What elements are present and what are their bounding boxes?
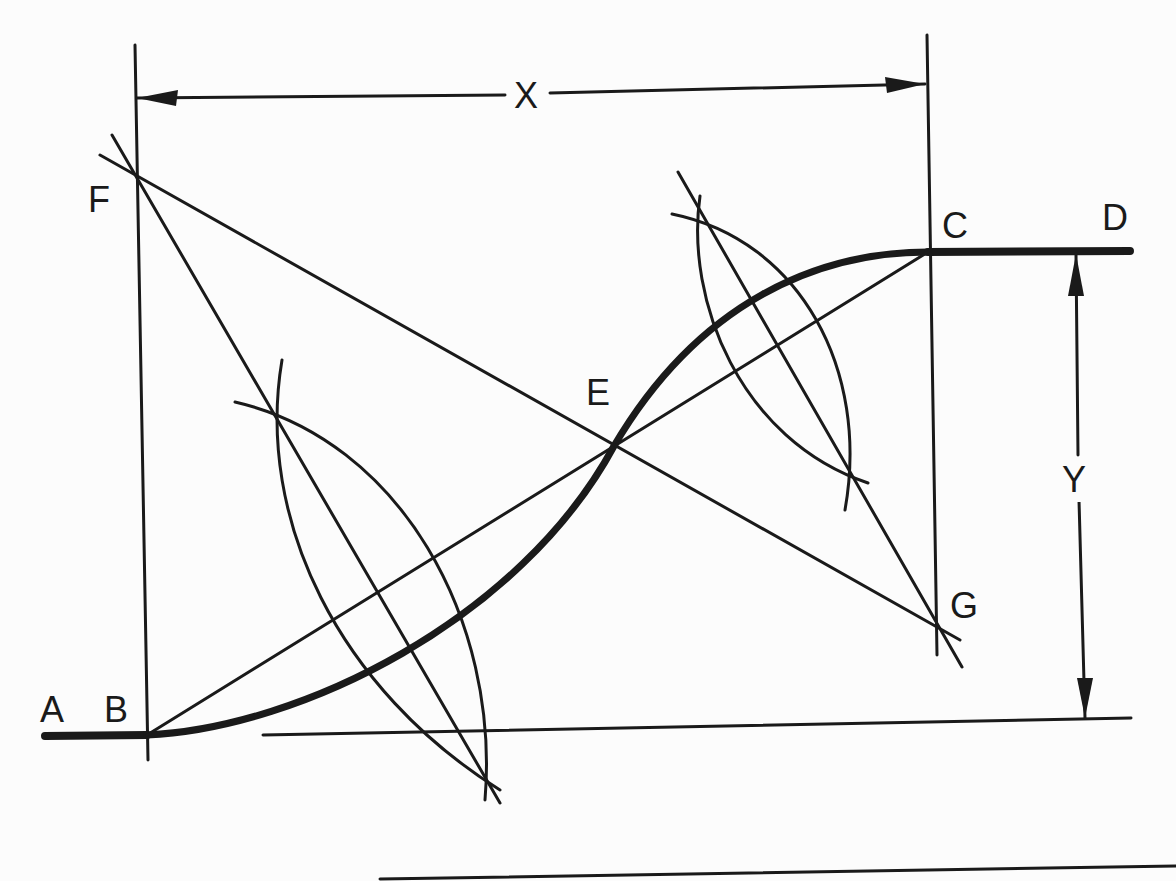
point-label-b: B — [104, 692, 128, 728]
line-f-g — [100, 155, 960, 640]
vertical-line-b — [135, 45, 148, 760]
tangent-line-cd — [928, 251, 1130, 252]
page-bottom-edge — [380, 866, 1176, 879]
arrowhead-y-bottom-icon — [1077, 678, 1093, 718]
point-label-c: C — [942, 208, 968, 244]
construction-arc-lower-right — [235, 402, 486, 800]
point-label-g: G — [950, 588, 978, 624]
perpendicular-bisector-upper — [678, 172, 962, 667]
baseline — [263, 718, 1131, 735]
dimension-label-x: X — [510, 78, 542, 114]
arrowhead-y-top-icon — [1068, 254, 1084, 296]
tangent-line-ab — [45, 735, 147, 736]
arrowhead-x-left-icon — [137, 90, 178, 106]
dimension-line-x-right — [550, 84, 925, 93]
reverse-curve-diagram — [0, 0, 1176, 881]
point-label-a: A — [40, 692, 64, 728]
chord-b-c — [147, 252, 928, 735]
construction-arc-upper-left — [698, 196, 868, 483]
point-label-d: D — [1102, 200, 1128, 236]
arrowhead-x-right-icon — [885, 77, 925, 93]
dimension-line-x-left — [137, 95, 505, 98]
point-label-e: E — [586, 375, 610, 411]
point-label-f: F — [88, 182, 110, 218]
dimension-label-y: Y — [1062, 458, 1086, 502]
construction-arc-lower-left — [277, 360, 500, 790]
vertical-line-c — [927, 35, 937, 655]
